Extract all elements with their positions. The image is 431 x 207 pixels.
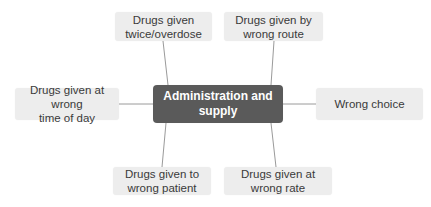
center-label-line2: supply	[163, 104, 272, 119]
center-label-line1: Administration and	[163, 89, 272, 104]
node-label-line1: Drugs given	[125, 13, 202, 27]
node-label-line2: wrong rate	[241, 181, 315, 195]
node-wrong-time: Drugs given at wrong time of day	[15, 88, 119, 120]
node-label-line2: wrong patient	[125, 181, 199, 195]
connector-wrong-patient	[162, 123, 166, 167]
connector-wrong-route	[271, 41, 274, 85]
node-label-line2: time of day	[19, 111, 115, 125]
node-label-line2: wrong route	[235, 27, 312, 41]
node-label-line2: twice/overdose	[125, 27, 202, 41]
node-label-line1: Drugs given to	[125, 167, 199, 181]
node-wrong-rate: Drugs given at wrong rate	[224, 167, 332, 195]
node-center-administration-supply: Administration and supply	[153, 85, 283, 123]
node-wrong-choice: Wrong choice	[316, 88, 423, 120]
node-label-line1: Drugs given at	[241, 167, 315, 181]
node-twice-overdose: Drugs given twice/overdose	[115, 12, 212, 41]
connector-twice-overdose	[163, 41, 168, 85]
node-label-line1: Drugs given by	[235, 13, 312, 27]
node-label-line1: Wrong choice	[334, 97, 404, 111]
node-wrong-route: Drugs given by wrong route	[224, 12, 323, 41]
node-label-line1: Drugs given at wrong	[19, 83, 115, 111]
connector-wrong-rate	[271, 123, 276, 167]
node-wrong-patient: Drugs given to wrong patient	[113, 167, 211, 195]
